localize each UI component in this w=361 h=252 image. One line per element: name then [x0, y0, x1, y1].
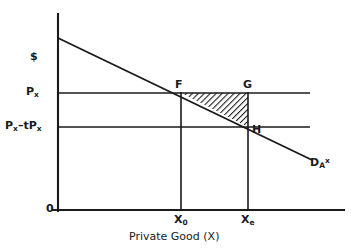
x-axis-label: Private Good (X) [129, 231, 219, 242]
shaded-triangle-fgh [181, 93, 248, 127]
px-tpx-first-base: P [5, 119, 13, 132]
y-axis-label: $ [30, 51, 38, 62]
quantity-label-x0-subscript: 0 [182, 218, 187, 227]
px-tpx-second-subscript: x [37, 124, 42, 133]
quantity-label-xe: Xe [241, 214, 255, 226]
origin-label: 0 [46, 203, 54, 214]
economics-diagram: $ Px Px–tPx 0 F G H X0 Xe DAx Private Go… [0, 0, 361, 252]
price-label-px-base: P [26, 85, 34, 98]
px-tpx-operator: –t [18, 119, 29, 132]
point-label-h: H [252, 124, 261, 135]
price-label-px: Px [26, 86, 39, 98]
point-label-g: G [243, 79, 252, 90]
demand-curve-label: DAx [310, 157, 330, 169]
px-tpx-second-base: P [29, 119, 37, 132]
demand-curve [58, 38, 312, 160]
quantity-label-x0: X0 [174, 214, 188, 226]
demand-curve-label-superscript: x [325, 156, 330, 165]
price-label-px-subscript: x [34, 90, 39, 99]
quantity-label-xe-subscript: e [249, 218, 254, 227]
price-label-px-minus-tpx: Px–tPx [5, 120, 42, 132]
point-label-f: F [175, 79, 183, 90]
demand-curve-label-base: D [310, 156, 319, 169]
